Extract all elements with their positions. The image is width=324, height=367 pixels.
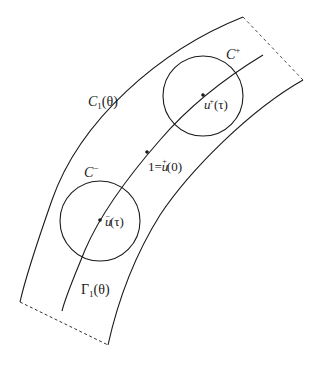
outer-right-curve — [108, 80, 303, 345]
label-u-plus-tau: u+(τ) — [204, 97, 228, 112]
label-c1-theta: C1(θ) — [88, 94, 118, 111]
point-u-plus-zero — [145, 150, 149, 154]
label-gamma1-theta: Γ1(θ) — [81, 282, 110, 299]
outer-left-curve — [20, 17, 243, 302]
point-u-minus-tau — [98, 218, 102, 222]
label-c-plus: C+ — [226, 45, 240, 62]
dashed-bottom-edge — [20, 302, 108, 345]
label-u-plus-zero: 1=u+(0) — [148, 157, 182, 174]
diagram-svg: C1(θ) C+ u+(τ) 1=u+(0) C− u−(τ) Γ1(θ) — [0, 0, 324, 367]
diagram-canvas: C1(θ) C+ u+(τ) 1=u+(0) C− u−(τ) Γ1(θ) — [0, 0, 324, 367]
label-u-minus-tau: u−(τ) — [105, 212, 124, 229]
dashed-top-edge — [243, 17, 303, 80]
label-c-minus: C− — [84, 163, 98, 180]
